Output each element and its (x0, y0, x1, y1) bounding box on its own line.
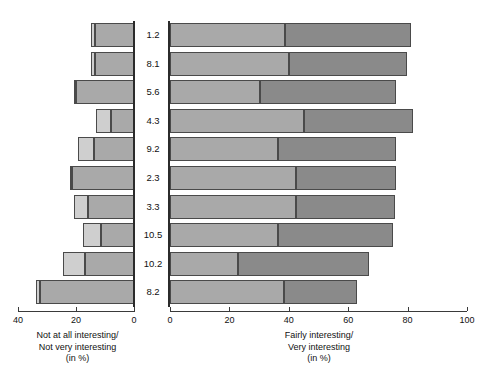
segment-not-very-interesting (72, 166, 134, 190)
center-label-5: 9.2 (139, 137, 167, 161)
segment-not-at-all-interesting (70, 166, 73, 190)
segment-very-interesting (289, 52, 407, 76)
left-bar-row (0, 52, 134, 76)
left-bar-row (0, 137, 134, 161)
segment-not-very-interesting (40, 280, 134, 304)
right-tick-label-40: 40 (276, 315, 302, 325)
right-tick-label-0: 0 (157, 315, 183, 325)
right-axis-title-line-3: (in %) (245, 353, 393, 365)
right-bar-row (167, 52, 487, 76)
segment-fairly-interesting (170, 252, 238, 276)
right-bar-row (167, 252, 487, 276)
right-bar-row (167, 280, 487, 304)
right-axis-title-line-2: Very interesting (245, 342, 393, 354)
right-tick-40 (289, 307, 290, 311)
left-tick-0 (134, 307, 135, 311)
segment-very-interesting (285, 23, 410, 47)
left-bar-row (0, 195, 134, 219)
left-bar-row (0, 109, 134, 133)
segment-not-at-all-interesting (78, 137, 94, 161)
segment-fairly-interesting (170, 23, 285, 47)
left-tick-label-40: 40 (5, 315, 31, 325)
right-tick-label-100: 100 (454, 315, 480, 325)
center-label-7: 3.3 (139, 195, 167, 219)
back-to-back-bar-chart: 1.28.15.64.39.22.33.310.510.28.2 40200 N… (0, 0, 487, 373)
segment-not-very-interesting (111, 109, 134, 133)
left-bar-row (0, 280, 134, 304)
right-bar-row (167, 23, 487, 47)
left-tick-40 (18, 307, 19, 311)
center-label-9: 10.2 (139, 252, 167, 276)
segment-fairly-interesting (170, 109, 304, 133)
segment-not-at-all-interesting (63, 252, 85, 276)
right-tick-100 (467, 307, 468, 311)
left-bar-row (0, 166, 134, 190)
segment-not-at-all-interesting (91, 23, 95, 47)
right-axis-title: Fairly interesting/ Very interesting (in… (245, 330, 393, 365)
right-bar-row (167, 223, 487, 247)
segment-very-interesting (304, 109, 413, 133)
center-label-8: 10.5 (139, 223, 167, 247)
segment-very-interesting (278, 137, 396, 161)
left-tick-20 (76, 307, 77, 311)
segment-not-at-all-interesting (91, 52, 95, 76)
left-axis-title-line-3: (in %) (20, 353, 135, 365)
left-bar-row (0, 223, 134, 247)
right-bar-row (167, 109, 487, 133)
left-axis-line (18, 311, 135, 312)
segment-not-very-interesting (95, 23, 134, 47)
segment-not-very-interesting (88, 195, 134, 219)
segment-not-at-all-interesting (96, 109, 111, 133)
right-tick-label-20: 20 (216, 315, 242, 325)
left-axis-title-line-2: Not very interesting (20, 342, 135, 354)
segment-very-interesting (278, 223, 393, 247)
right-tick-20 (229, 307, 230, 311)
left-axis-title-line-1: Not at all interesting/ (20, 330, 135, 342)
left-axis-title: Not at all interesting/ Not very interes… (20, 330, 135, 365)
segment-not-very-interesting (101, 223, 134, 247)
center-label-6: 2.3 (139, 166, 167, 190)
segment-fairly-interesting (170, 280, 284, 304)
right-bar-row (167, 195, 487, 219)
segment-very-interesting (238, 252, 369, 276)
segment-very-interesting (260, 80, 396, 104)
right-baseline (168, 21, 170, 307)
segment-not-at-all-interesting (36, 280, 40, 304)
center-label-4: 4.3 (139, 109, 167, 133)
segment-not-very-interesting (85, 252, 134, 276)
segment-not-very-interesting (94, 137, 134, 161)
segment-very-interesting (296, 195, 394, 219)
segment-fairly-interesting (170, 166, 296, 190)
center-label-1: 1.2 (139, 23, 167, 47)
left-tick-label-0: 0 (121, 315, 147, 325)
right-axis-title-line-1: Fairly interesting/ (245, 330, 393, 342)
right-tick-80 (408, 307, 409, 311)
left-bar-row (0, 252, 134, 276)
right-tick-60 (348, 307, 349, 311)
right-bar-row (167, 137, 487, 161)
right-panel (167, 0, 487, 373)
center-label-10: 8.2 (139, 280, 167, 304)
right-axis-line (170, 311, 467, 312)
segment-not-very-interesting (76, 80, 134, 104)
right-bar-row (167, 80, 487, 104)
segment-fairly-interesting (170, 195, 296, 219)
left-bar-row (0, 23, 134, 47)
segment-not-very-interesting (95, 52, 134, 76)
right-tick-label-80: 80 (395, 315, 421, 325)
segment-fairly-interesting (170, 223, 278, 247)
right-bar-row (167, 166, 487, 190)
segment-fairly-interesting (170, 137, 278, 161)
segment-fairly-interesting (170, 80, 260, 104)
segment-very-interesting (284, 280, 357, 304)
right-tick-0 (170, 307, 171, 311)
segment-fairly-interesting (170, 52, 289, 76)
center-label-3: 5.6 (139, 80, 167, 104)
right-tick-label-60: 60 (335, 315, 361, 325)
left-bar-row (0, 80, 134, 104)
segment-not-at-all-interesting (74, 80, 76, 104)
left-baseline (133, 21, 135, 307)
segment-very-interesting (296, 166, 396, 190)
center-label-column: 1.28.15.64.39.22.33.310.510.28.2 (139, 20, 167, 306)
left-tick-label-20: 20 (63, 315, 89, 325)
